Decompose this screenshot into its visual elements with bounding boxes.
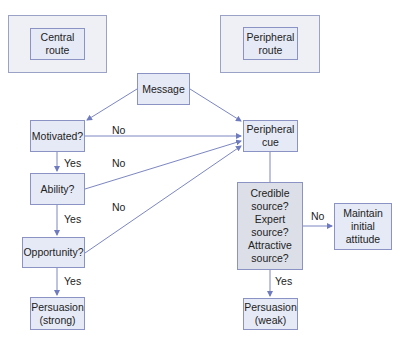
opportunity-no-label: No xyxy=(112,201,125,213)
central-route-box: Central route xyxy=(30,28,85,60)
ability-node: Ability? xyxy=(30,173,85,205)
peripheral-cue-node: Peripheral cue xyxy=(243,120,298,152)
motivated-no-label: No xyxy=(112,124,125,136)
persuasion-weak-node: Persuasion (weak) xyxy=(243,298,298,330)
maintain-attitude-node: Maintain initial attitude xyxy=(334,203,392,250)
source-yes-label: Yes xyxy=(275,275,292,287)
source-no-label: No xyxy=(311,210,324,222)
peripheral-route-box: Peripheral route xyxy=(243,27,298,60)
motivated-yes-label: Yes xyxy=(64,157,81,169)
opportunity-node: Opportunity? xyxy=(22,237,85,268)
message-node: Message xyxy=(137,73,190,105)
ability-no-label: No xyxy=(112,157,125,169)
source-check-node: Credible source? Expert source? Attracti… xyxy=(237,182,303,270)
opportunity-yes-label: Yes xyxy=(64,275,81,287)
motivated-node: Motivated? xyxy=(30,120,85,152)
persuasion-strong-node: Persuasion (strong) xyxy=(30,297,85,330)
ability-yes-label: Yes xyxy=(64,213,81,225)
